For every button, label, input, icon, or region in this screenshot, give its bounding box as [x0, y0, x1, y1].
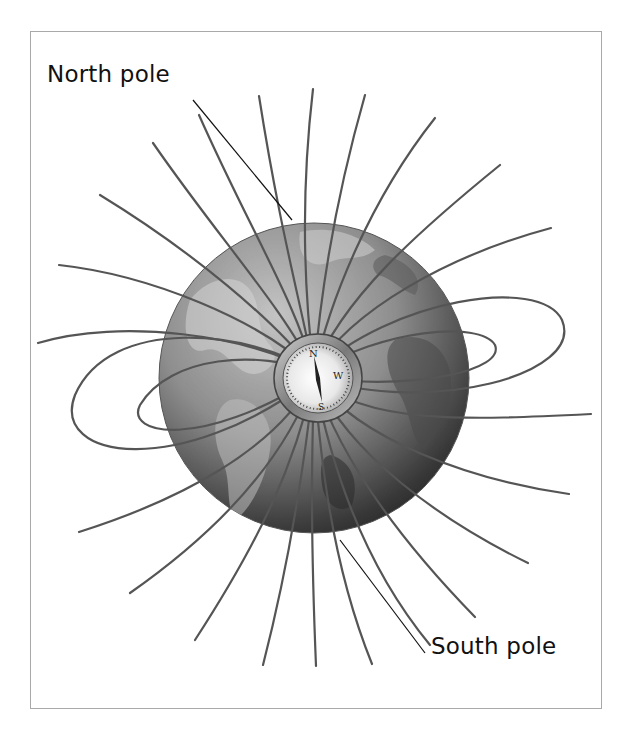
- south-pole-label: South pole: [431, 633, 556, 659]
- compass-letter-s: S: [318, 402, 324, 412]
- north-pole-leader: [193, 100, 292, 220]
- compass-letter-w: W: [333, 370, 344, 381]
- south-pole-leader: [340, 540, 425, 653]
- north-pole-label: North pole: [47, 61, 170, 87]
- magnetic-field-diagram: N W S: [0, 0, 631, 741]
- compass-letter-n: N: [309, 348, 318, 359]
- compass-icon: N W S: [274, 334, 362, 422]
